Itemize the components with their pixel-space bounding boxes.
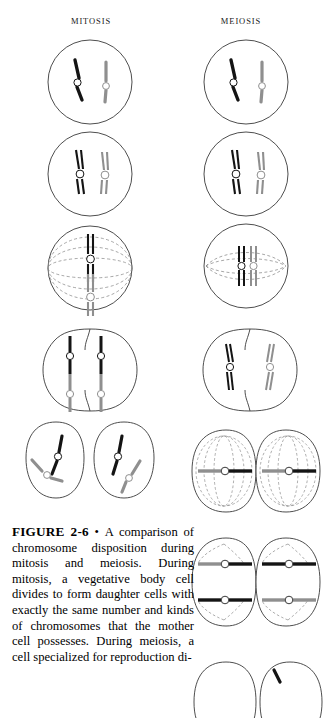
mitosis-stage-1-interphase <box>44 36 136 128</box>
meiosis-stage-2-prophase-i <box>200 128 292 220</box>
haploid-cell-left <box>194 662 256 718</box>
cell-outline <box>48 132 132 216</box>
cell-outline-dividing <box>203 329 297 411</box>
cell-outline <box>48 40 132 124</box>
mitosis-stage-2-prophase <box>44 128 136 220</box>
meiosis-stage-5-metaphase-ii <box>186 424 326 518</box>
mitosis-stage-4-telophase <box>22 322 158 418</box>
meiosis-stage-3-metaphase-i <box>200 220 292 312</box>
mitosis-stage-3-metaphase <box>40 220 140 316</box>
cell-outline <box>204 224 288 308</box>
figure-caption: FIGURE 2-6 • A comparison of chromosome … <box>12 524 194 665</box>
caption-text: A comparison of chromosome disposition d… <box>12 525 194 664</box>
meiosis-stage-4-anaphase-i <box>182 322 318 418</box>
meiosis-stage-6-anaphase-ii <box>186 530 326 634</box>
cell-outline <box>204 40 288 124</box>
haploid-cell-right <box>260 662 322 718</box>
cell-left <box>192 430 256 512</box>
daughter-cell-left <box>26 422 84 498</box>
cell-outline-dividing <box>43 329 137 411</box>
mitosis-stage-5-daughter-cells <box>18 416 164 508</box>
meiosis-stage-1-interphase <box>200 36 292 128</box>
cell-left <box>192 538 256 626</box>
cell-right <box>256 538 320 626</box>
figure-number: FIGURE 2-6 <box>12 524 89 539</box>
column-heading-mitosis: MITOSIS <box>46 16 136 26</box>
cell-right <box>256 430 320 512</box>
cell-outline <box>204 132 288 216</box>
column-heading-meiosis: MEIOSIS <box>196 16 286 26</box>
meiosis-stage-7-haploid-cells <box>188 658 328 718</box>
daughter-cell-right <box>94 422 154 498</box>
